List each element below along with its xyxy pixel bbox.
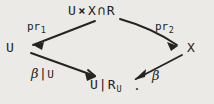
bottom-subscript: U — [116, 84, 122, 94]
bottom-relation: R — [108, 77, 116, 92]
apex-third-term: R — [107, 3, 115, 18]
restriction-set: U — [47, 68, 54, 81]
pr2-text: pr — [155, 20, 168, 33]
intersection-symbol: ∩ — [96, 3, 106, 18]
edge-label-beta: β — [152, 69, 160, 82]
node-right: X — [187, 41, 195, 54]
times-symbol: × — [76, 4, 88, 18]
node-left: U — [6, 41, 14, 54]
restriction-bar: | — [98, 77, 107, 92]
beta-symbol: β — [31, 66, 39, 81]
node-apex: U×X∩R — [68, 4, 115, 17]
edge-label-pr2: pr2 — [155, 21, 173, 32]
edge-label-pr1: pr1 — [27, 21, 45, 32]
pr1-text: pr — [27, 20, 40, 33]
period-mark: . — [133, 79, 141, 92]
edge-label-beta-restricted-u: β|U — [31, 67, 54, 80]
beta-symbol: β — [152, 68, 160, 83]
diagram-canvas: U×X∩R U X U|RU . pr1 pr2 β|U β — [0, 0, 214, 104]
node-bottom: U|RU — [90, 78, 122, 91]
pr1-subscript: 1 — [41, 25, 46, 35]
pr2-subscript: 2 — [169, 25, 174, 35]
